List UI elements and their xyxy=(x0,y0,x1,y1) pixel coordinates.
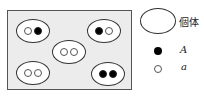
allele-a-icon xyxy=(60,48,68,56)
population-box xyxy=(7,10,132,90)
individual-legend-icon xyxy=(140,8,176,34)
individual xyxy=(52,40,86,64)
allele-a-icon xyxy=(24,69,32,77)
allele-a-icon xyxy=(24,27,32,35)
allele-A-icon xyxy=(95,27,103,35)
allele-a-icon xyxy=(34,69,42,77)
allele-a-icon xyxy=(105,27,113,35)
dominant-allele-label: A xyxy=(180,44,187,55)
recessive-allele-label: a xyxy=(181,61,187,72)
dominant-allele-legend-icon xyxy=(154,47,162,55)
individual xyxy=(16,19,50,43)
individual xyxy=(16,61,50,85)
individual xyxy=(91,62,125,86)
individual xyxy=(87,19,121,43)
allele-A-icon xyxy=(99,70,107,78)
allele-A-icon xyxy=(34,27,42,35)
allele-a-icon xyxy=(70,48,78,56)
allele-A-icon xyxy=(109,70,117,78)
recessive-allele-legend-icon xyxy=(154,65,162,73)
individual-legend-label: 個体 xyxy=(179,14,199,29)
